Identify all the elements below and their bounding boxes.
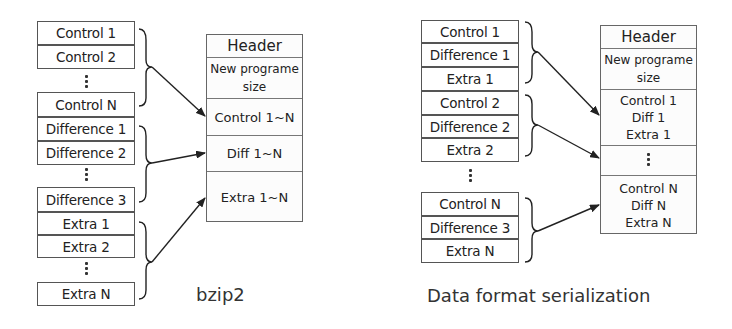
- brace-icon: [525, 95, 538, 156]
- arrow-icon: [152, 153, 205, 163]
- arrow-icon: [152, 198, 205, 262]
- brace-icon: [139, 222, 152, 299]
- arrow-icon: [152, 67, 205, 116]
- arrow-icon: [538, 52, 599, 115]
- brace-icon: [139, 126, 152, 202]
- brace-icon: [139, 29, 152, 106]
- connectors: [0, 0, 732, 329]
- brace-icon: [525, 198, 538, 262]
- arrow-icon: [538, 125, 599, 158]
- brace-icon: [525, 22, 538, 83]
- arrow-icon: [538, 205, 599, 231]
